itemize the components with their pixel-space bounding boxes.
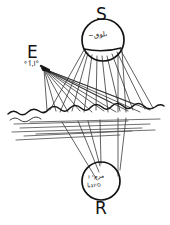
receiver-annotation-scribble-line-1: مرمי ו [88, 171, 104, 179]
source-node[interactable] [82, 19, 124, 61]
emitter-annotation-scribble: °ﺍ,ٱ° [24, 60, 40, 69]
emitter-label: E [27, 44, 38, 61]
receiver-annotation-scribble-line-2: סיוגبا [87, 181, 101, 189]
water-body-hatching [12, 119, 160, 140]
source-label: S [96, 6, 107, 23]
ray-diagram-canvas: S E R ~ىلوٯ °ﺍ,ٱ° مرمי ו סיוגبا [0, 0, 170, 225]
receiver-label: R [95, 200, 107, 217]
source-ray-fan [50, 49, 153, 112]
ray-diagram-svg [0, 0, 170, 225]
